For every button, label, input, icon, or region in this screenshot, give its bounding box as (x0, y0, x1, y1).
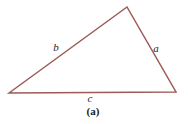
side-label-b: b (53, 42, 59, 53)
triangle-figure: b a c (a) (0, 0, 188, 124)
triangle-outline (9, 7, 176, 93)
side-label-a: a (153, 43, 159, 54)
side-label-c: c (88, 93, 93, 104)
figure-caption: (a) (87, 106, 100, 117)
